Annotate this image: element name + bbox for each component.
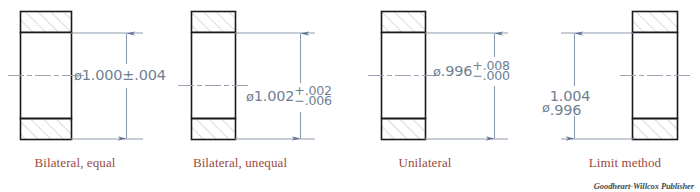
dimension-text-limit-method: ø1.004.996	[542, 89, 590, 117]
part-top-section	[633, 12, 678, 33]
dimension-text-bilateral-unequal: ø1.002+.002−.006	[246, 86, 332, 107]
diameter-symbol: ø	[433, 64, 441, 79]
basic-dimension-value: .996	[441, 64, 473, 79]
figure-limit-method-geometry	[561, 12, 692, 140]
publisher-credit: Goodheart-Willcox Publisher	[594, 181, 694, 191]
lower-tolerance: −.006	[294, 96, 332, 107]
basic-dimension-value: 1.000	[82, 67, 123, 83]
basic-dimension-value: 1.002	[254, 89, 295, 104]
part-top-section	[21, 12, 72, 33]
upper-limit: 1.004	[550, 89, 591, 103]
figure-label-limit-method: Limit method	[555, 155, 695, 170]
part-body	[192, 33, 236, 119]
figure-label-bilateral-equal: Bilateral, equal	[0, 155, 150, 170]
part-bottom-section	[21, 119, 72, 140]
figure-label-bilateral-unequal: Bilateral, unequal	[155, 155, 325, 170]
figure-label-unilateral: Unilateral	[355, 155, 495, 170]
part-top-section	[382, 12, 426, 33]
dimension-text-unilateral: ø.996+.008−.000	[433, 61, 510, 82]
lower-tolerance: −.000	[472, 71, 510, 82]
part-bottom-section	[382, 119, 426, 140]
part-bottom-section	[192, 119, 236, 140]
part-top-section	[192, 12, 236, 33]
tolerance-stack: +.008−.000	[472, 61, 510, 82]
tolerance-methods-figure: ø1.000±.004 ø1.002+.002−.006 ø.996+.008−…	[0, 0, 700, 192]
diameter-symbol: ø	[74, 68, 82, 83]
dimension-text-bilateral-equal: ø1.000±.004	[74, 68, 166, 83]
plus-minus-tolerance: ±.004	[122, 67, 165, 83]
diameter-symbol: ø	[246, 89, 254, 104]
tolerance-stack: +.002−.006	[294, 86, 332, 107]
diameter-symbol: ø	[542, 100, 550, 115]
limit-stack: 1.004.996	[550, 89, 591, 117]
part-bottom-section	[633, 119, 678, 140]
figure-bilateral-unequal-geometry	[178, 12, 315, 140]
lower-limit: .996	[550, 103, 591, 117]
